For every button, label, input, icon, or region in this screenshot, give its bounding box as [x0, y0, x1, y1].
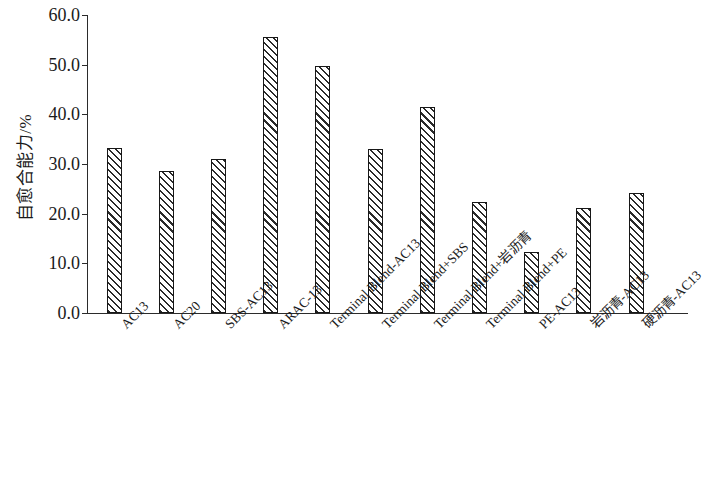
bar [211, 159, 226, 313]
bar [159, 171, 174, 313]
bar [315, 66, 330, 313]
y-tick-label: 40.0 [28, 105, 80, 123]
y-tick-label: 50.0 [28, 56, 80, 74]
x-axis-category-labels: AC13AC20SBS-AC13ARAC-13Terminal Blend-AC… [0, 313, 693, 480]
bar [263, 37, 278, 313]
y-tick-label: 60.0 [28, 6, 80, 24]
y-tick-label: 30.0 [28, 155, 80, 173]
y-tick-label: 20.0 [28, 205, 80, 223]
y-tick-label: 10.0 [28, 254, 80, 272]
bar [107, 148, 122, 313]
